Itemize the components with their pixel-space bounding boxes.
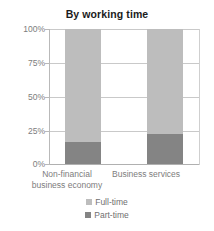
x-axis-label-line2: business economy [28, 180, 106, 191]
plot-area [49, 29, 200, 165]
bar-segment-full-time[interactable] [65, 29, 101, 142]
y-axis-tick-75: 75% [3, 59, 45, 68]
x-axis-label-line1: Non-financial [28, 169, 106, 180]
legend-swatch-icon-full-time [86, 199, 92, 205]
x-axis-label-business-services: Business services [107, 169, 185, 180]
legend-swatch-icon-part-time [85, 212, 91, 218]
y-axis-tick-100: 100% [3, 25, 45, 34]
bar-segment-part-time[interactable] [65, 142, 101, 164]
legend-item-part-time[interactable]: Part-time [85, 210, 128, 220]
chart-container: By working time 100% 75% 50% 25% 0% Non-… [0, 0, 214, 231]
bar-segment-part-time[interactable] [147, 134, 183, 164]
x-axis-label-line1: Business services [107, 169, 185, 180]
axis-baseline [50, 164, 199, 165]
y-axis-tick-25: 25% [3, 127, 45, 136]
y-axis-tick-0: 0% [3, 160, 45, 169]
y-axis-tick-50: 50% [3, 93, 45, 102]
x-axis-label-non-financial-business-economy: Non-financial business economy [28, 169, 106, 191]
legend-item-full-time[interactable]: Full-time [86, 197, 128, 207]
chart-title: By working time [0, 8, 214, 20]
chart-legend: Full-time Part-time [0, 197, 214, 220]
bar-segment-full-time[interactable] [147, 29, 183, 134]
bar-stack-business-services[interactable] [147, 29, 183, 164]
bar-stack-non-financial-business-economy[interactable] [65, 29, 101, 164]
legend-label-part-time: Part-time [94, 210, 128, 220]
legend-label-full-time: Full-time [95, 197, 128, 207]
